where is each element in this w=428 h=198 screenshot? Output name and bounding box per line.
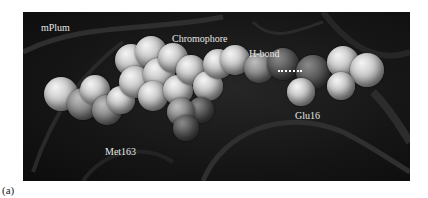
atom-sphere xyxy=(287,78,315,106)
hbond-label: H-bond xyxy=(249,48,280,59)
atom-sphere xyxy=(173,115,199,141)
hbond-dotted-line xyxy=(278,70,302,72)
chromophore-label: Chromophore xyxy=(172,33,228,44)
protein-name-label: mPlum xyxy=(41,22,70,33)
atom-sphere xyxy=(350,53,384,87)
atom-sphere xyxy=(327,72,355,100)
molecular-render-panel: mPlum Chromophore H-bond Glu16 Met163 xyxy=(23,12,410,181)
panel-caption: (a) xyxy=(2,184,14,196)
met163-label: Met163 xyxy=(105,146,136,157)
glu16-label: Glu16 xyxy=(295,110,320,121)
